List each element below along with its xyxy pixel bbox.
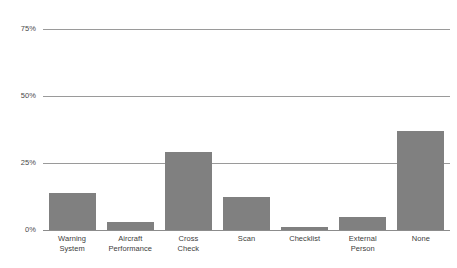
xtick-label-checklist: Checklist <box>276 234 334 244</box>
xtick-label-warning-system: Warning System <box>43 234 101 254</box>
bar-external-person[interactable] <box>339 217 386 230</box>
bar-none[interactable] <box>397 131 444 230</box>
bar-checklist[interactable] <box>281 227 328 230</box>
bar-chart: 75% 50% 25% 0% Warning System Aircraft P… <box>0 0 457 268</box>
bar-warning-system[interactable] <box>49 193 96 230</box>
bar-scan[interactable] <box>223 197 270 230</box>
xtick-label-cross-check: Cross Check <box>159 234 217 254</box>
bar-cross-check[interactable] <box>165 152 212 230</box>
xtick-label-scan: Scan <box>217 234 275 244</box>
xtick-label-none: None <box>392 234 450 244</box>
bar-aircraft-performance[interactable] <box>107 222 154 230</box>
xtick-label-aircraft-performance: Aircraft Performance <box>101 234 159 254</box>
bars-layer <box>0 0 457 268</box>
xtick-label-external-person: External Person <box>334 234 392 254</box>
